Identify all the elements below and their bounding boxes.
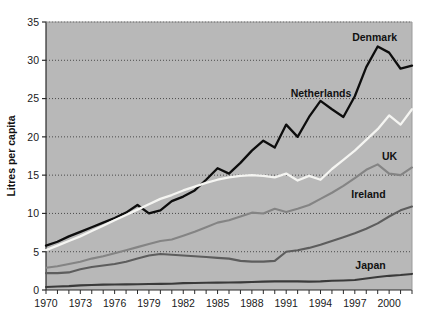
x-axis-ticks-group: 1970197319761979198219851988199119941997… <box>34 290 412 309</box>
x-axis-tick-label: 1985 <box>206 297 230 309</box>
series-label-denmark: Denmark <box>352 31 397 43</box>
y-axis-tick-label: 25 <box>27 92 39 104</box>
series-label-japan: Japan <box>355 259 385 271</box>
plot-background-group <box>46 22 412 290</box>
chart-container: 05101520253035 1970197319761979198219851… <box>0 0 428 334</box>
x-axis-tick-label: 1982 <box>172 297 196 309</box>
y-axis-tick-label: 20 <box>27 131 39 143</box>
x-axis-tick-label: 1976 <box>103 297 127 309</box>
y-axis-tick-label: 10 <box>27 207 39 219</box>
x-axis-tick-label: 1994 <box>309 297 333 309</box>
line-chart: 05101520253035 1970197319761979198219851… <box>0 0 428 334</box>
series-label-ireland: Ireland <box>351 188 385 200</box>
y-axis-tick-label: 0 <box>33 284 39 296</box>
x-axis-tick-label: 1979 <box>137 297 161 309</box>
series-label-uk: UK <box>382 150 398 162</box>
y-axis-ticks-group: 05101520253035 <box>27 16 46 296</box>
x-axis-tick-label: 1997 <box>343 297 367 309</box>
x-axis-tick-label: 1991 <box>275 297 299 309</box>
y-axis-tick-label: 35 <box>27 16 39 28</box>
y-axis-tick-label: 5 <box>33 246 39 258</box>
x-axis-tick-label: 1970 <box>34 297 58 309</box>
x-axis-tick-label: 1973 <box>69 297 93 309</box>
series-label-netherlands: Netherlands <box>291 87 352 99</box>
y-axis-title-group: Litres per capita <box>5 115 17 196</box>
y-axis-tick-label: 15 <box>27 169 39 181</box>
plot-background <box>46 22 412 290</box>
y-axis-title: Litres per capita <box>5 115 17 196</box>
x-axis-tick-label: 1988 <box>240 297 264 309</box>
y-axis-tick-label: 30 <box>27 54 39 66</box>
x-axis-tick-label: 2000 <box>377 297 401 309</box>
